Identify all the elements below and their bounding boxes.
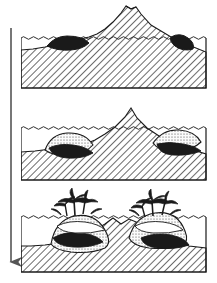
panel-stage-2 <box>21 100 207 182</box>
panel-stage-3 <box>21 188 207 278</box>
palm-tree-left <box>51 188 102 216</box>
atoll-formation-figure <box>0 0 217 283</box>
panel-stage-1 <box>21 0 207 92</box>
